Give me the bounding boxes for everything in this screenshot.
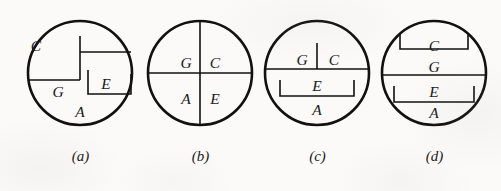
- region-label-c-C: C: [329, 52, 339, 68]
- caption-d: (d): [372, 148, 497, 165]
- region-label-a-E: E: [101, 76, 110, 92]
- caption-c: (c): [255, 148, 380, 165]
- region-label-d-C: C: [429, 38, 439, 54]
- figure-panel-a: C G E A (a): [18, 0, 143, 191]
- region-label-c-G: G: [296, 52, 307, 68]
- region-label-a-A: A: [75, 104, 84, 120]
- region-label-d-A: A: [429, 105, 438, 121]
- caption-b: (b): [138, 148, 263, 165]
- figure-row: C G E A (a) G C A E (b) G C: [0, 0, 501, 191]
- diagram-b: [138, 18, 263, 128]
- region-label-c-E: E: [312, 78, 321, 94]
- region-label-b-E: E: [210, 91, 219, 107]
- figure-panel-b: G C A E (b): [138, 0, 263, 191]
- region-label-b-G: G: [180, 55, 191, 71]
- caption-a: (a): [18, 148, 143, 165]
- figure-panel-d: C G E A (d): [372, 0, 497, 191]
- region-label-a-G: G: [52, 84, 63, 100]
- region-label-b-C: C: [210, 55, 220, 71]
- region-label-d-G: G: [428, 59, 439, 75]
- region-label-c-A: A: [312, 102, 321, 118]
- figure-panel-c: G C E A (c): [255, 0, 380, 191]
- region-label-a-C: C: [31, 38, 41, 54]
- region-label-b-A: A: [181, 91, 190, 107]
- region-label-d-E: E: [429, 84, 438, 100]
